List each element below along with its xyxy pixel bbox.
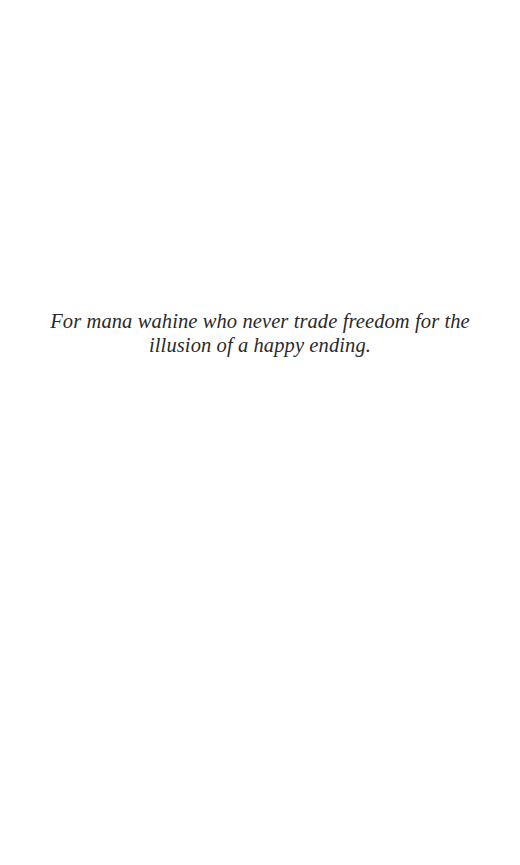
book-page: For mana wahine who never trade freedom … [0,0,520,865]
dedication-text: For mana wahine who never trade freedom … [20,309,500,357]
